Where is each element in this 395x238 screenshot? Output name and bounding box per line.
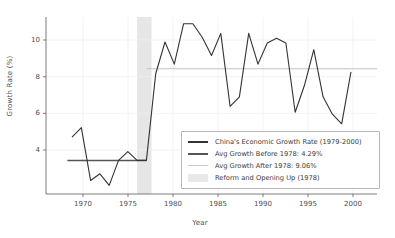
x-tick-label-1990: 1990 [243, 200, 283, 208]
x-tick-label-1970: 1970 [63, 200, 103, 208]
x-tick-label-1985: 1985 [198, 200, 238, 208]
legend-item-reform-band: Reform and Opening Up (1978) [187, 172, 374, 184]
legend-item-avg-after: Avg Growth After 1978: 9.06% [187, 160, 374, 172]
legend-label-reform-band: Reform and Opening Up (1978) [215, 174, 320, 182]
y-tick-label-10: 10 [18, 36, 40, 44]
legend-label-avg-after: Avg Growth After 1978: 9.06% [215, 162, 317, 170]
legend-label-avg-before: Avg Growth Before 1978: 4.29% [215, 150, 322, 158]
y-tick-label-8: 8 [18, 73, 40, 81]
x-tick-label-1975: 1975 [108, 200, 148, 208]
y-axis-title: Growth Rate (%) [6, 50, 14, 122]
x-tick-label-1995: 1995 [288, 200, 328, 208]
chart-container: 10 8 6 4 1970 1975 1980 1985 1990 1995 2… [0, 0, 395, 238]
legend-item-growth-rate: China's Economic Growth Rate (1979-2000) [187, 136, 374, 148]
legend-label-growth-rate: China's Economic Growth Rate (1979-2000) [215, 138, 362, 146]
legend-item-avg-before: Avg Growth Before 1978: 4.29% [187, 148, 374, 160]
x-axis-title: Year [150, 219, 250, 227]
reform-and-opening-up-band [137, 17, 151, 194]
y-tick-label-4: 4 [18, 146, 40, 154]
chart-legend: China's Economic Growth Rate (1979-2000)… [181, 131, 380, 189]
x-tick-label-2000: 2000 [333, 200, 373, 208]
x-tick-label-1980: 1980 [153, 200, 193, 208]
legend-swatch-line-icon [187, 149, 209, 159]
legend-swatch-line-icon [187, 137, 209, 147]
legend-swatch-rect-icon [187, 173, 209, 183]
y-tick-label-6: 6 [18, 109, 40, 117]
legend-swatch-line-icon [187, 161, 209, 171]
